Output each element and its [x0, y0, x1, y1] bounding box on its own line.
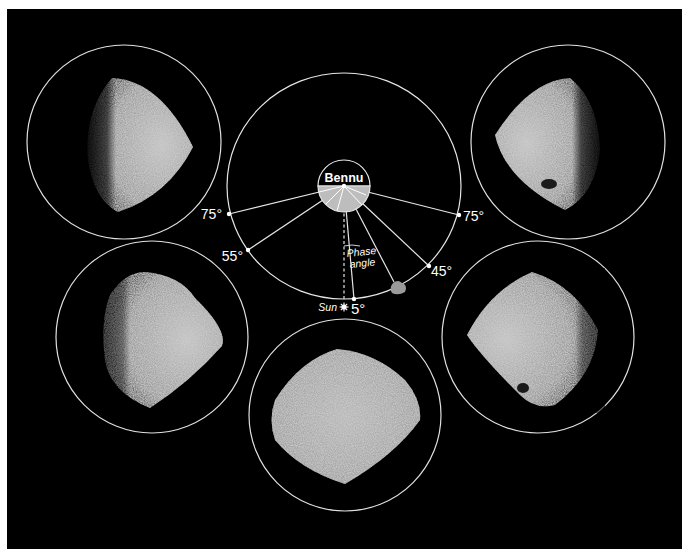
bennu-label: Bennu [325, 171, 364, 185]
view-middle-right [442, 241, 634, 433]
sun-label: Sun [318, 301, 337, 313]
view-top-left [27, 45, 221, 239]
angle-label-45-right: 45° [431, 263, 452, 279]
phase-angle-diagram: Bennu 75° 55° 5° 45° 75° Phase angle Sun [201, 73, 484, 317]
angle-label-55-left: 55° [222, 248, 243, 264]
sun-icon [340, 303, 349, 312]
phase-angle-label-line2: angle [349, 255, 376, 270]
angle-label-75-left: 75° [201, 206, 222, 222]
angle-label-75-right: 75° [463, 208, 484, 224]
diagram-canvas: Bennu 75° 55° 5° 45° 75° Phase angle Sun [7, 9, 682, 549]
bennu-disk [318, 160, 370, 212]
view-top-right [471, 45, 665, 239]
angle-label-5: 5° [351, 300, 365, 317]
asteroid-image [272, 349, 421, 484]
view-middle-left [56, 241, 248, 433]
view-bottom-center [249, 319, 441, 511]
